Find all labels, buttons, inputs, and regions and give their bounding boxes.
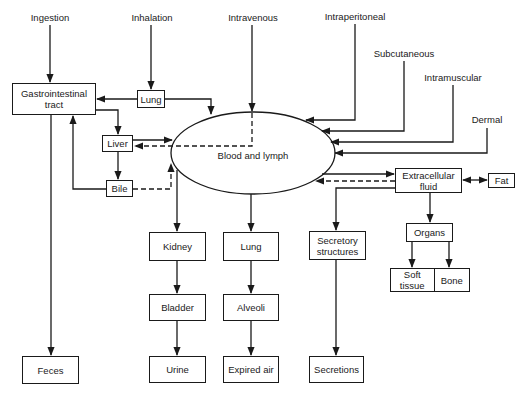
route-intraperitoneal: Intraperitoneal (325, 11, 386, 22)
node-label: Urine (166, 364, 189, 375)
node-expired-air: Expired air (223, 356, 279, 383)
node-gi-tract: Gastrointestinal tract (12, 83, 96, 115)
node-lung-absorption: Lung (137, 90, 165, 108)
node-label: Liver (107, 138, 128, 149)
blood-lymph-label: Blood and lymph (218, 150, 289, 161)
node-kidney: Kidney (149, 232, 206, 261)
node-label: Expired air (228, 364, 273, 375)
route-inhalation: Inhalation (131, 12, 172, 23)
node-label: Secretions (314, 364, 359, 375)
node-extracellular-fluid: Extracellular fluid (395, 168, 462, 193)
node-label: Feces (38, 365, 64, 376)
node-label: Secretory structures (310, 235, 365, 257)
route-dermal: Dermal (472, 114, 503, 125)
node-label: Gastrointestinal tract (13, 88, 95, 110)
node-lung-excretion: Lung (223, 232, 279, 261)
node-label: Lung (140, 94, 161, 105)
node-secretory-structures: Secretory structures (309, 231, 366, 260)
node-label: Alveoli (237, 302, 265, 313)
node-label: Bladder (161, 302, 194, 313)
node-label: Extracellular fluid (396, 170, 461, 192)
node-label: Organs (414, 227, 445, 238)
node-label: Bile (112, 183, 128, 194)
node-bladder: Bladder (149, 294, 206, 321)
route-ingestion: Ingestion (31, 12, 70, 23)
node-urine: Urine (149, 356, 206, 383)
route-intramuscular: Intramuscular (424, 72, 482, 83)
node-bile: Bile (106, 180, 133, 197)
node-soft-tissue: Soft tissue (391, 269, 435, 291)
node-feces: Feces (22, 356, 79, 384)
node-alveoli: Alveoli (223, 294, 279, 321)
node-soft-tissue-bone: Soft tissue Bone (390, 268, 470, 292)
node-label: Kidney (163, 241, 192, 252)
connection-lines (0, 0, 525, 393)
route-intravenous: Intravenous (228, 12, 278, 23)
node-organs: Organs (406, 223, 453, 242)
node-bone: Bone (435, 269, 470, 291)
node-label: Fat (495, 175, 509, 186)
node-fat: Fat (488, 173, 515, 188)
node-label: Lung (240, 241, 261, 252)
route-subcutaneous: Subcutaneous (374, 48, 435, 59)
node-liver: Liver (102, 135, 133, 152)
node-secretions: Secretions (309, 356, 364, 383)
